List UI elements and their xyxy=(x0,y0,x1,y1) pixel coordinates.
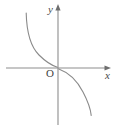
graph-canvas xyxy=(0,0,120,132)
coordinate-graph-figure: y x O xyxy=(0,0,120,132)
curve-branch-quadrant-2 xyxy=(26,13,57,67)
y-axis-arrow-icon xyxy=(55,4,60,11)
x-axis-label: x xyxy=(105,70,110,81)
origin-label: O xyxy=(46,68,54,79)
curve-branch-quadrant-4 xyxy=(59,69,91,116)
y-axis-label: y xyxy=(48,4,53,15)
